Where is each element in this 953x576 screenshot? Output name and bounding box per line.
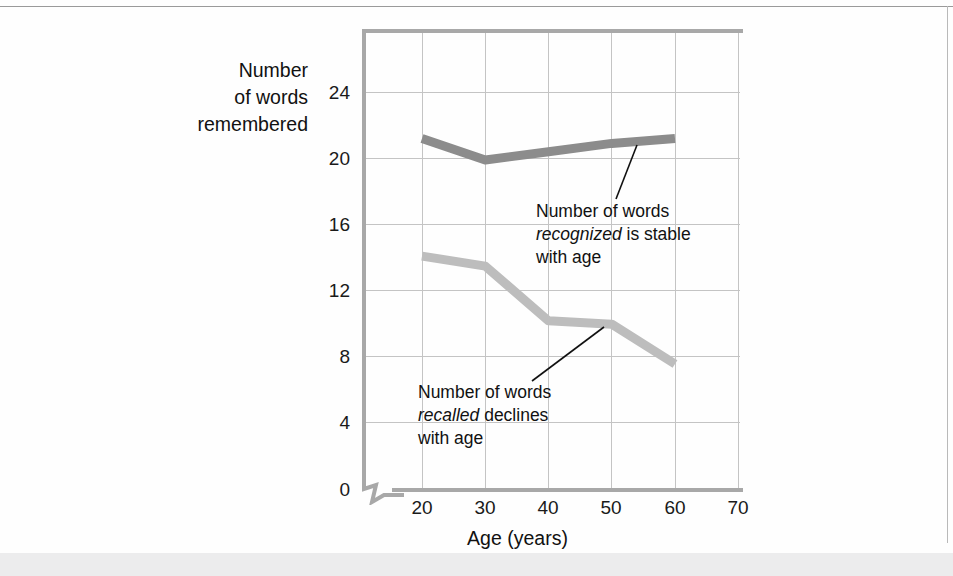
annotation-recognized-line-3: with age	[536, 246, 746, 269]
line-chart: 24 20 16 12 8 4 0 20 30 40 50 60 70 Numb…	[0, 0, 953, 576]
x-axis-title-text: Age (years)	[467, 527, 568, 550]
x-tick-50: 50	[581, 497, 641, 519]
figure-page: 24 20 16 12 8 4 0 20 30 40 50 60 70 Numb…	[0, 0, 953, 576]
gridline-horizontal-12	[363, 290, 740, 291]
x-tick-40: 40	[518, 497, 578, 519]
annotation-recalled-line-2-rest: declines	[479, 405, 548, 425]
y-tick-label: 16	[306, 214, 350, 236]
annotation-recognized-line-1: Number of words	[536, 200, 746, 223]
annotation-recalled: Number of words recalled declines with a…	[418, 381, 633, 450]
leader-line-recalled	[532, 327, 604, 381]
x-tick-60: 60	[645, 497, 705, 519]
y-axis-line	[362, 29, 366, 466]
annotation-recognized: Number of words recognized is stable wit…	[536, 200, 746, 269]
y-tick-label: 24	[306, 82, 350, 104]
x-axis-title: Age (years)	[0, 527, 953, 550]
gridline-horizontal-24	[363, 92, 740, 93]
x-tick-20: 20	[392, 497, 452, 519]
annotation-recognized-line-2: recognized is stable	[536, 223, 746, 246]
y-tick-label: 8	[306, 346, 350, 368]
y-axis-title-line-1: Number	[118, 57, 308, 84]
leader-line-recognized	[616, 145, 637, 199]
gridline-horizontal-8	[363, 356, 740, 357]
x-tick-30: 30	[455, 497, 515, 519]
y-axis-title: Number of words remembered	[118, 57, 308, 138]
gridline-horizontal-20	[363, 158, 740, 159]
y-axis-title-line-3: remembered	[118, 111, 308, 138]
plot-frame-top-edge	[363, 29, 743, 33]
x-axis-line	[392, 488, 743, 492]
annotation-recalled-line-3: with age	[418, 427, 633, 450]
annotation-recalled-line-2: recalled declines	[418, 404, 633, 427]
x-tick-70: 70	[708, 497, 768, 519]
annotation-recognized-emphasis: recognized	[536, 224, 622, 244]
y-axis-title-line-2: of words	[118, 84, 308, 111]
annotation-recognized-line-2-rest: is stable	[622, 224, 691, 244]
y-tick-label: 4	[306, 412, 350, 434]
annotation-recalled-emphasis: recalled	[418, 405, 479, 425]
y-tick-label: 12	[306, 280, 350, 302]
annotation-recalled-line-1: Number of words	[418, 381, 633, 404]
y-tick-label: 20	[306, 148, 350, 170]
y-tick-label: 0	[306, 479, 350, 501]
